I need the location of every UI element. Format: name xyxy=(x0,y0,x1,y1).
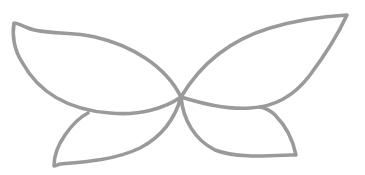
upper-left-wing xyxy=(13,23,181,114)
lower-right-wing xyxy=(181,97,296,156)
drawing-canvas: Butterfly wings outline xyxy=(0,0,365,175)
upper-right-wing xyxy=(181,15,347,108)
butterfly-wings-illustration xyxy=(0,0,365,175)
